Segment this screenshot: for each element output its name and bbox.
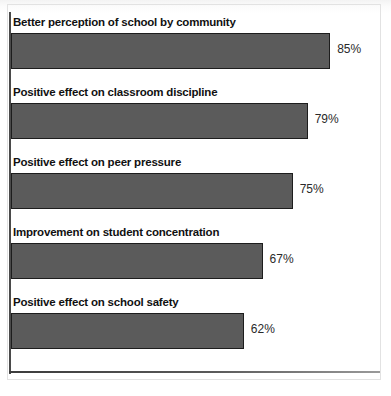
- value-axis-line: [9, 371, 380, 373]
- bar-rect: [11, 103, 308, 139]
- bar-value-label: 62%: [251, 322, 275, 336]
- bar-category-label: Better perception of school by community: [13, 16, 236, 28]
- bar-value-label: 79%: [315, 112, 339, 126]
- chart-screenshot: Better perception of school by community…: [0, 0, 391, 396]
- bar-rect: [11, 33, 330, 69]
- bar-category-label: Positive effect on classroom discipline: [13, 86, 217, 98]
- bar-rect: [11, 313, 244, 349]
- bar-value-label: 67%: [270, 252, 294, 266]
- bar-category-label: Positive effect on peer pressure: [13, 156, 181, 168]
- bar-rect: [11, 243, 263, 279]
- bar-value-label: 75%: [300, 182, 324, 196]
- bar-value-label: 85%: [337, 42, 361, 56]
- bar-rect: [11, 173, 293, 209]
- bar-category-label: Positive effect on school safety: [13, 296, 179, 308]
- bar-series: Better perception of school by community…: [9, 10, 380, 371]
- plot-area: Better perception of school by community…: [9, 10, 380, 374]
- bar-category-label: Improvement on student concentration: [13, 226, 219, 238]
